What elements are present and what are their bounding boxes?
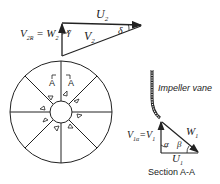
w1-label: W1 — [186, 126, 198, 139]
section-marker-left: A — [49, 79, 55, 88]
section-caption: Section A-A — [148, 168, 195, 177]
section-marker-right: A — [68, 79, 74, 88]
u2-label: U2 — [96, 8, 108, 23]
u1-label: U1 — [172, 153, 183, 166]
beta-angle-label: β — [177, 140, 181, 149]
delta-angle-label: δ — [118, 26, 123, 36]
gamma-angle-label: γ — [67, 27, 71, 37]
impeller-vane-label: Impeller vane — [158, 84, 212, 93]
v2r-equals-w2-label: V2R = W2 — [20, 28, 59, 41]
impeller-vane — [152, 70, 160, 118]
alpha-angle-label: α — [164, 140, 169, 149]
v2-label: V2 — [84, 30, 95, 45]
outlet-velocity-triangle — [62, 23, 141, 56]
impeller-drawing — [10, 61, 112, 163]
v1a-equals-v1-label: V1α=V1 — [127, 130, 155, 142]
